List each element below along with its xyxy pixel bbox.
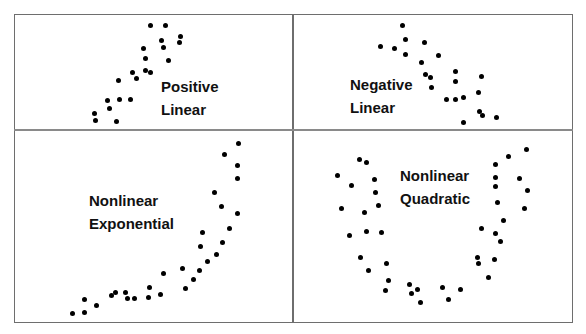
data-point xyxy=(214,252,219,257)
data-point xyxy=(212,190,217,195)
data-point xyxy=(506,154,511,159)
data-point xyxy=(177,40,182,45)
data-point xyxy=(197,268,202,273)
horizontal-divider xyxy=(14,129,573,131)
data-point xyxy=(407,282,412,287)
data-point xyxy=(183,286,188,291)
data-point xyxy=(366,268,371,273)
data-point xyxy=(358,255,363,260)
data-point xyxy=(453,97,458,102)
data-point xyxy=(128,97,133,102)
scatter-correlation-figure: Positive Linear Negative Linear Nonlinea… xyxy=(0,0,586,334)
data-point xyxy=(107,106,112,111)
label-line: Quadratic xyxy=(400,187,470,210)
data-point xyxy=(105,98,110,103)
data-point xyxy=(524,147,529,152)
data-point xyxy=(475,255,480,260)
data-point xyxy=(236,141,241,146)
data-point xyxy=(409,291,414,296)
data-point xyxy=(109,293,114,298)
data-point xyxy=(364,229,369,234)
data-point xyxy=(148,70,153,75)
data-point xyxy=(116,78,121,83)
data-point xyxy=(446,297,451,302)
data-point xyxy=(378,44,383,49)
label-line: Nonlinear xyxy=(400,164,470,187)
data-point xyxy=(495,200,500,205)
label-positive-linear: Positive Linear xyxy=(161,75,219,121)
data-point xyxy=(436,53,441,58)
data-point xyxy=(453,79,458,84)
data-point xyxy=(222,152,227,157)
data-point xyxy=(476,90,481,95)
data-point xyxy=(125,296,130,301)
data-point xyxy=(428,75,433,80)
data-point xyxy=(493,184,498,189)
data-point xyxy=(373,190,378,195)
label-line: Nonlinear xyxy=(89,189,174,212)
data-point xyxy=(480,113,485,118)
data-point xyxy=(130,70,135,75)
label-line: Linear xyxy=(161,98,219,121)
data-point xyxy=(178,34,183,39)
data-point xyxy=(82,297,87,302)
data-point xyxy=(70,311,75,316)
data-point xyxy=(479,74,484,79)
label-line: Negative xyxy=(350,73,413,96)
data-point xyxy=(403,52,408,57)
data-point xyxy=(486,275,491,280)
data-point xyxy=(493,175,498,180)
data-point xyxy=(132,296,137,301)
data-point xyxy=(501,218,506,223)
data-point xyxy=(429,85,434,90)
data-point xyxy=(419,60,424,65)
data-point xyxy=(386,278,391,283)
data-point xyxy=(494,115,499,120)
data-point xyxy=(166,58,171,63)
data-point xyxy=(205,259,210,264)
data-point xyxy=(362,210,367,215)
data-point xyxy=(493,162,498,167)
label-line: Positive xyxy=(161,75,219,98)
data-point xyxy=(163,23,168,28)
label-nonlinear-exponential: Nonlinear Exponential xyxy=(89,189,174,235)
data-point xyxy=(453,69,458,74)
data-point xyxy=(372,177,377,182)
data-point xyxy=(383,288,388,293)
data-point xyxy=(114,119,119,124)
data-point xyxy=(159,38,164,43)
data-point xyxy=(492,257,497,262)
data-point xyxy=(444,97,449,102)
data-point xyxy=(134,76,139,81)
data-point xyxy=(461,120,466,125)
data-point xyxy=(143,56,148,61)
data-point xyxy=(339,206,344,211)
data-point xyxy=(347,233,352,238)
label-line: Exponential xyxy=(89,212,174,235)
data-point xyxy=(123,290,128,295)
data-point xyxy=(440,285,445,290)
data-point xyxy=(493,231,498,236)
data-point xyxy=(148,23,153,28)
data-point xyxy=(219,204,224,209)
data-point xyxy=(461,95,466,100)
data-point xyxy=(93,118,98,123)
data-point xyxy=(379,230,384,235)
data-point xyxy=(180,266,185,271)
data-point xyxy=(161,45,166,50)
data-point xyxy=(476,261,481,266)
data-point xyxy=(376,203,381,208)
data-point xyxy=(143,68,148,73)
data-point xyxy=(403,37,408,42)
data-point xyxy=(227,226,232,231)
data-point xyxy=(191,277,196,282)
data-point xyxy=(525,188,530,193)
data-point xyxy=(422,40,427,45)
data-point xyxy=(335,173,340,178)
data-point xyxy=(392,46,397,51)
data-point xyxy=(117,97,122,102)
label-nonlinear-quadratic: Nonlinear Quadratic xyxy=(400,164,470,210)
data-point xyxy=(200,230,205,235)
data-point xyxy=(423,72,428,77)
data-point xyxy=(517,176,522,181)
